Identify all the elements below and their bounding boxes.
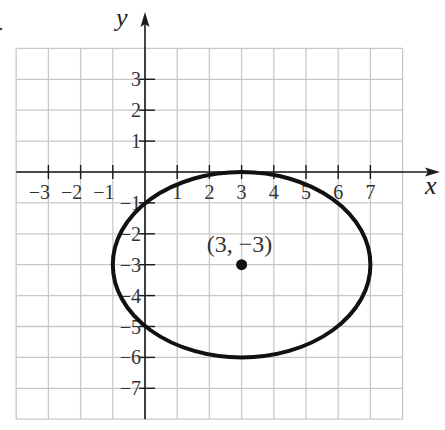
x-tick-label: −1 [93,181,114,203]
center-dot-icon [236,259,247,270]
y-tick-label: 3 [131,68,141,90]
y-axis-label: y [113,3,128,32]
ellipse-graph: −3−2−11234567321−1−2−3−4−5−6−7 (3, −3) y… [0,0,445,430]
x-tick-label: 2 [204,181,214,203]
x-tick-label: 3 [237,181,247,203]
y-tick-label: −6 [120,346,141,368]
corner-mark [0,28,2,31]
y-tick-label: −3 [120,254,141,276]
x-tick-label: 4 [269,181,279,203]
x-tick-label: −2 [61,181,82,203]
center-point-label: (3, −3) [207,231,273,257]
y-tick-label: 1 [131,130,141,152]
y-tick-label: −7 [120,377,141,399]
y-tick-label: 2 [131,99,141,121]
x-tick-label: 7 [365,181,375,203]
x-tick-label: −3 [29,181,50,203]
x-axis-label: x [424,171,437,200]
